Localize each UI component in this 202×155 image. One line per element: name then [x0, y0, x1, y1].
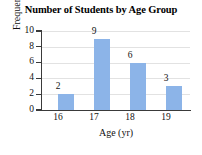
gridline-10 [42, 31, 190, 32]
gridline-6 [42, 63, 190, 64]
bar-value-18: 6 [119, 50, 141, 60]
y-tick-label-10: 10 [16, 25, 34, 35]
y-axis-title: Frequency [11, 0, 23, 46]
bar-value-17: 9 [83, 26, 105, 36]
bar-17[interactable] [94, 39, 110, 110]
bar-value-19: 3 [155, 73, 177, 83]
x-tick-label-16: 16 [46, 112, 70, 122]
y-tick-label-4: 4 [16, 72, 34, 82]
chart-title: Number of Students by Age Group [0, 4, 202, 15]
y-tick-label-8: 8 [16, 41, 34, 51]
y-tick-label-6: 6 [16, 56, 34, 66]
gridline-8 [42, 47, 190, 48]
y-tick-label-2: 2 [16, 88, 34, 98]
y-tick-label-0: 0 [16, 104, 34, 114]
bar-16[interactable] [58, 94, 74, 110]
bar-value-16: 2 [47, 81, 69, 91]
bar-chart-figure: Number of Students by Age Group Frequenc… [0, 0, 202, 155]
x-axis-title: Age (yr) [42, 127, 190, 138]
plot-area [42, 31, 190, 110]
x-tick-label-18: 18 [118, 112, 142, 122]
x-tick-label-19: 19 [154, 112, 178, 122]
bar-19[interactable] [166, 86, 182, 110]
bar-18[interactable] [130, 63, 146, 110]
x-tick-label-17: 17 [82, 112, 106, 122]
